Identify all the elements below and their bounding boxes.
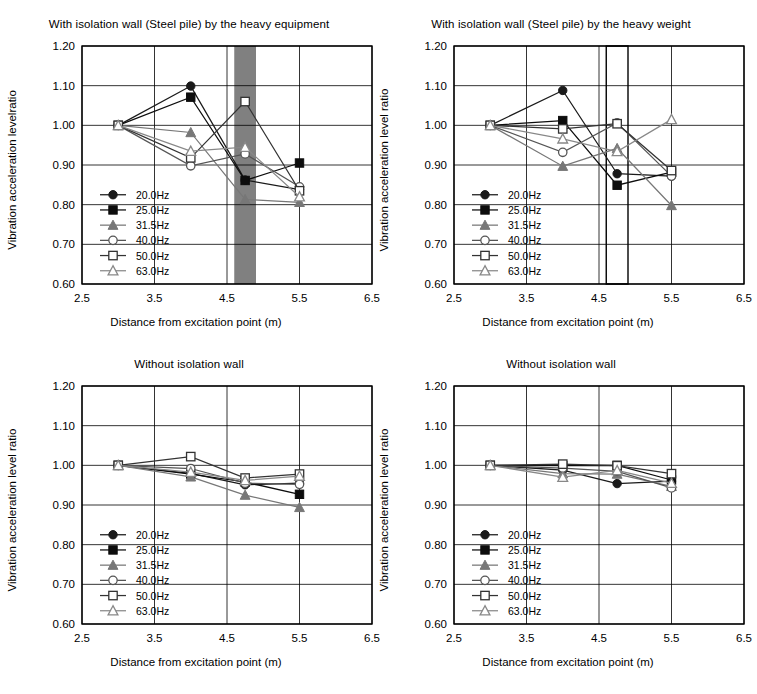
y-tick-label: 0.80 (425, 539, 447, 551)
legend-item[interactable]: 63.0Hz (100, 605, 169, 617)
y-tick-label: 1.00 (53, 459, 75, 471)
data-point-marker (481, 191, 489, 199)
legend-label: 63.0Hz (136, 265, 169, 277)
legend-label: 63.0Hz (508, 605, 541, 617)
legend-item[interactable]: 50.0Hz (472, 250, 541, 262)
chart-svg: 0.600.700.800.901.001.101.202.53.54.55.5… (392, 374, 750, 664)
data-point-marker (558, 161, 568, 170)
y-tick-label: 1.20 (53, 40, 75, 52)
x-tick-label: 2.5 (74, 292, 90, 304)
y-tick-label: 0.70 (53, 578, 75, 590)
data-point-marker (295, 159, 303, 167)
legend-item[interactable]: 31.5Hz (472, 219, 541, 231)
y-axis-label: Vibration acceleration level ratio (4, 380, 20, 640)
chart-panel-top-left: With isolation wall (Steel pile) by the … (0, 0, 378, 347)
legend-item[interactable]: 20.0Hz (472, 189, 541, 201)
x-tick-label: 2.5 (446, 292, 462, 304)
y-tick-label: 1.00 (53, 119, 75, 131)
chart-svg: 0.600.700.800.901.001.101.202.53.54.55.5… (392, 34, 750, 324)
y-tick-label: 1.20 (53, 380, 75, 392)
y-tick-label: 0.70 (53, 238, 75, 250)
y-tick-label: 1.10 (53, 80, 75, 92)
legend-label: 31.5Hz (508, 219, 541, 231)
legend-label: 20.0Hz (136, 529, 169, 541)
figure-canvas: With isolation wall (Steel pile) by the … (0, 0, 757, 694)
x-tick-label: 3.5 (147, 292, 163, 304)
legend-item[interactable]: 63.0Hz (100, 265, 169, 277)
y-tick-label: 1.20 (425, 40, 447, 52)
data-point-marker (613, 120, 621, 128)
legend-item[interactable]: 63.0Hz (472, 265, 541, 277)
x-tick-label: 5.5 (664, 632, 680, 644)
legend-item[interactable]: 20.0Hz (100, 529, 169, 541)
series-line (490, 90, 671, 176)
x-tick-label: 5.5 (292, 292, 308, 304)
legend-item[interactable]: 20.0Hz (472, 529, 541, 541)
y-tick-label: 0.70 (425, 578, 447, 590)
y-tick-label: 1.00 (425, 459, 447, 471)
data-point-marker (109, 206, 117, 214)
y-tick-label: 0.60 (53, 278, 75, 290)
legend-label: 40.0Hz (508, 574, 541, 586)
data-point-marker (481, 251, 489, 259)
chart-svg: 0.600.700.800.901.001.101.202.53.54.55.5… (20, 374, 378, 664)
legend-item[interactable]: 25.0Hz (100, 204, 169, 216)
y-tick-label: 0.60 (425, 278, 447, 290)
legend-item[interactable]: 31.5Hz (100, 559, 169, 571)
x-tick-label: 3.5 (519, 632, 535, 644)
legend-label: 40.0Hz (136, 234, 169, 246)
legend-label: 50.0Hz (136, 590, 169, 602)
legend-item[interactable]: 25.0Hz (100, 544, 169, 556)
y-tick-label: 0.60 (425, 618, 447, 630)
chart-title: Without isolation wall (372, 358, 750, 370)
legend-label: 25.0Hz (508, 544, 541, 556)
x-axis-label: Distance from excitation point (m) (386, 656, 750, 668)
legend-item[interactable]: 50.0Hz (100, 590, 169, 602)
legend-label: 20.0Hz (136, 189, 169, 201)
legend-label: 25.0Hz (136, 544, 169, 556)
data-point-marker (187, 82, 195, 90)
chart-title: With isolation wall (Steel pile) by the … (372, 18, 750, 30)
legend-label: 40.0Hz (508, 234, 541, 246)
series-line (118, 125, 299, 196)
chart-panel-top-right: With isolation wall (Steel pile) by the … (372, 0, 750, 347)
legend-item[interactable]: 25.0Hz (472, 544, 541, 556)
data-point-marker (481, 546, 489, 554)
series-200Hz (114, 82, 304, 194)
legend-item[interactable]: 31.5Hz (472, 559, 541, 571)
chart-title: Without isolation wall (0, 358, 378, 370)
x-tick-label: 3.5 (519, 292, 535, 304)
data-point-marker (481, 531, 489, 539)
y-tick-label: 0.60 (53, 618, 75, 630)
data-point-marker (667, 114, 677, 123)
x-tick-label: 5.5 (292, 632, 308, 644)
x-tick-label: 2.5 (446, 632, 462, 644)
y-tick-label: 0.90 (425, 499, 447, 511)
x-axis-label: Distance from excitation point (m) (386, 316, 750, 328)
data-point-marker (109, 191, 117, 199)
data-point-marker (613, 170, 621, 178)
x-tick-label: 5.5 (664, 292, 680, 304)
data-point-marker (241, 176, 249, 184)
legend-label: 20.0Hz (508, 189, 541, 201)
y-axis-label: Vibration acceleration level ratio (376, 380, 392, 640)
y-tick-label: 0.80 (53, 199, 75, 211)
legend-item[interactable]: 25.0Hz (472, 204, 541, 216)
legend-label: 50.0Hz (508, 590, 541, 602)
x-axis-label: Distance from excitation point (m) (14, 656, 378, 668)
data-point-marker (241, 97, 249, 105)
data-point-marker (187, 162, 195, 170)
y-tick-label: 1.00 (425, 119, 447, 131)
series-400Hz (114, 121, 304, 191)
data-point-marker (240, 490, 250, 499)
legend-item[interactable]: 20.0Hz (100, 189, 169, 201)
x-tick-label: 4.5 (591, 632, 607, 644)
legend-item[interactable]: 63.0Hz (472, 605, 541, 617)
legend-item[interactable]: 50.0Hz (100, 250, 169, 262)
chart-panel-bottom-right: Without isolation wall Vibration acceler… (372, 340, 750, 687)
plot-area: 0.600.700.800.901.001.101.202.53.54.55.5… (392, 374, 750, 664)
legend-item[interactable]: 50.0Hz (472, 590, 541, 602)
legend-item[interactable]: 31.5Hz (100, 219, 169, 231)
series-line (118, 465, 299, 507)
data-point-marker (109, 531, 117, 539)
